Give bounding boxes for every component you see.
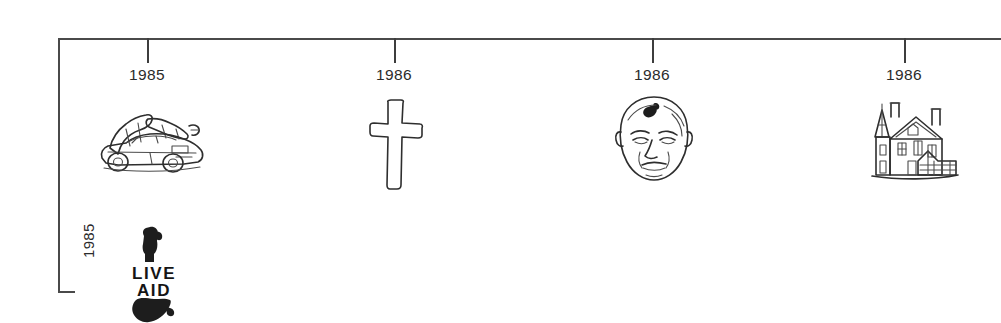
tick-mark-3 bbox=[904, 38, 906, 63]
tick-label-1: 1986 bbox=[376, 66, 412, 84]
timeline-diagram: 1985 1985 bbox=[0, 0, 1001, 323]
tick-label-0: 1985 bbox=[129, 66, 165, 84]
tick-mark-0 bbox=[147, 38, 149, 63]
victorian-house-icon bbox=[858, 95, 962, 185]
timeline-axis-line bbox=[58, 38, 1001, 40]
delorean-car-icon bbox=[88, 96, 210, 174]
side-year-label: 1985 bbox=[80, 223, 97, 258]
timeline-left-bracket-line bbox=[58, 38, 60, 292]
tick-mark-1 bbox=[394, 38, 396, 63]
live-aid-line-2: AID bbox=[137, 281, 171, 300]
tick-mark-2 bbox=[652, 38, 654, 63]
live-aid-logo-icon: LIVE AID bbox=[116, 226, 192, 323]
tick-label-2: 1986 bbox=[634, 66, 670, 84]
gorbachev-face-icon bbox=[612, 94, 696, 184]
tick-label-3: 1986 bbox=[886, 66, 922, 84]
timeline-left-bracket-foot bbox=[58, 291, 75, 293]
cross-icon bbox=[368, 99, 424, 191]
